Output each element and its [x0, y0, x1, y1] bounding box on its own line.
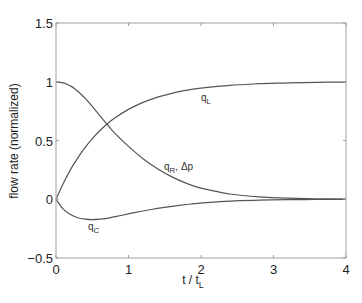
- curve-q-c: [56, 199, 346, 219]
- y-tick-label: −0.5: [27, 251, 53, 266]
- y-tick-label: 1.5: [35, 16, 53, 31]
- x-tick-label: 0: [52, 262, 59, 277]
- x-tick-label: 3: [270, 262, 277, 277]
- y-axis-label: flow rate (normalized): [7, 83, 21, 198]
- y-tick-label: 0: [46, 192, 53, 207]
- y-tick-label: 0.5: [35, 134, 53, 149]
- axis-ticks: 01234−0.500.511.5: [27, 16, 349, 277]
- axes-frame: [56, 23, 346, 258]
- x-tick-label: 4: [342, 262, 349, 277]
- y-tick-label: 1: [46, 75, 53, 90]
- curve-label-qR-dp: qR, Δp: [164, 161, 194, 175]
- curve-label-qL: qL: [201, 92, 212, 106]
- x-tick-label: 1: [125, 262, 132, 277]
- flow-rate-chart: 01234−0.500.511.5 flow rate (normalized)…: [0, 0, 362, 303]
- curve-label-qC: qC: [88, 221, 100, 235]
